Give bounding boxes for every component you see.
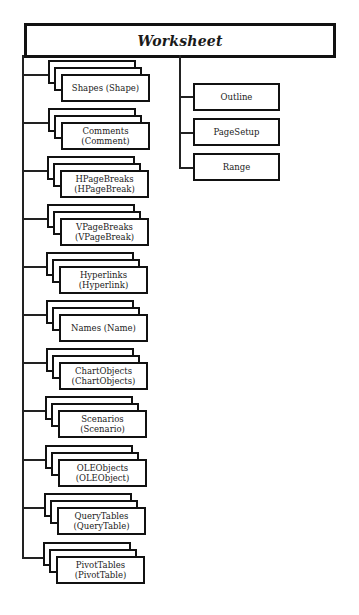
connector-hpagebreaks	[22, 170, 47, 172]
collection-label: PivotTables(PivotTable)	[75, 560, 127, 581]
collection-label: Hyperlinks(Hyperlink)	[79, 270, 128, 291]
stack-front-card: ChartObjects(ChartObjects)	[59, 362, 148, 390]
stack-front-card: HPageBreaks(HPageBreak)	[60, 170, 149, 198]
connector-comments	[22, 122, 48, 124]
right-trunk-connector	[179, 55, 181, 168]
collection-label: VPageBreaks(VPageBreak)	[75, 222, 134, 243]
collection-node-scenarios: Scenarios(Scenario)	[45, 396, 149, 438]
collection-label: Shapes (Shape)	[72, 83, 139, 94]
collection-label: ChartObjects(ChartObjects)	[72, 366, 136, 387]
collection-label: HPageBreaks(HPageBreak)	[74, 174, 134, 195]
stack-front-card: Names (Name)	[59, 314, 148, 342]
collection-label: Scenarios(Scenario)	[80, 414, 125, 435]
collection-label: QueryTables(QueryTable)	[73, 511, 129, 532]
collection-node-hyperlinks: Hyperlinks(Hyperlink)	[46, 252, 150, 294]
collection-node-oleobjects: OLEObjects(OLEObject)	[45, 445, 149, 487]
collection-node-pivottables: PivotTables(PivotTable)	[43, 542, 147, 584]
object-label: Outline	[221, 92, 253, 103]
connector-pivottables	[22, 557, 43, 559]
stack-front-card: VPageBreaks(VPageBreak)	[60, 218, 149, 246]
collection-label: OLEObjects(OLEObject)	[76, 463, 130, 484]
collection-node-chartobjects: ChartObjects(ChartObjects)	[46, 348, 150, 390]
stack-front-card: Hyperlinks(Hyperlink)	[59, 266, 148, 294]
connector-pagesetup	[179, 132, 193, 134]
object-node-pagesetup: PageSetup	[193, 118, 280, 146]
collection-node-names: Names (Name)	[46, 300, 150, 342]
stack-front-card: PivotTables(PivotTable)	[56, 556, 145, 584]
object-node-outline: Outline	[193, 83, 280, 111]
connector-oleobjects	[22, 459, 45, 461]
collection-node-hpagebreaks: HPageBreaks(HPageBreak)	[47, 156, 151, 198]
collection-label: Names (Name)	[71, 323, 136, 334]
connector-shapes	[22, 74, 48, 76]
connector-chartobjects	[22, 362, 46, 364]
connector-hyperlinks	[22, 266, 46, 268]
connector-scenarios	[22, 410, 45, 412]
object-label: Range	[223, 162, 251, 173]
collection-node-shapes: Shapes (Shape)	[48, 60, 152, 102]
connector-names	[22, 314, 46, 316]
object-label: PageSetup	[213, 127, 259, 138]
connector-querytables	[22, 507, 44, 509]
connector-vpagebreaks	[22, 218, 47, 220]
stack-front-card: Comments(Comment)	[61, 122, 150, 150]
collection-label: Comments(Comment)	[81, 126, 129, 147]
connector-range	[179, 167, 193, 169]
stack-front-card: Shapes (Shape)	[61, 74, 150, 102]
object-node-range: Range	[193, 153, 280, 181]
stack-front-card: QueryTables(QueryTable)	[57, 507, 146, 535]
worksheet-root-node: Worksheet	[24, 23, 336, 58]
connector-outline	[179, 96, 193, 98]
worksheet-title: Worksheet	[137, 33, 222, 49]
collection-node-vpagebreaks: VPageBreaks(VPageBreak)	[47, 204, 151, 246]
collection-node-querytables: QueryTables(QueryTable)	[44, 493, 148, 535]
stack-front-card: OLEObjects(OLEObject)	[58, 459, 147, 487]
stack-front-card: Scenarios(Scenario)	[58, 410, 147, 438]
collection-node-comments: Comments(Comment)	[48, 108, 152, 150]
left-trunk-connector	[22, 55, 24, 558]
